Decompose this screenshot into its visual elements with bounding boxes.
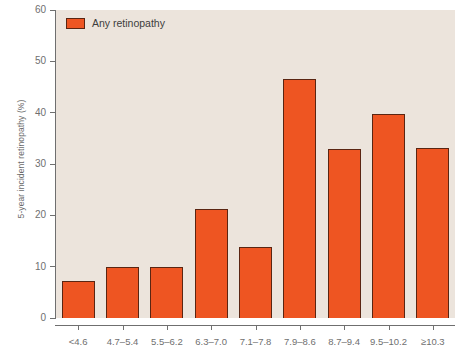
bar <box>239 247 272 318</box>
y-tick-label: 40 <box>24 108 46 118</box>
x-tick-mark <box>123 325 124 330</box>
bar <box>62 281 95 318</box>
x-tick-label: 8.7–9.4 <box>322 336 366 347</box>
x-tick-label: 7.1–7.8 <box>233 336 277 347</box>
y-tick-label: 30 <box>24 159 46 169</box>
y-tick-label: 0 <box>24 313 46 323</box>
x-tick-mark <box>78 325 79 330</box>
y-tick-mark <box>50 61 55 62</box>
legend: Any retinopathy <box>66 18 165 29</box>
y-tick-label: 20 <box>24 210 46 220</box>
bar <box>106 267 139 318</box>
y-tick-label: 50 <box>24 56 46 66</box>
x-tick-label: 6.3–7.0 <box>189 336 233 347</box>
bar <box>416 148 449 318</box>
y-tick-label: 60 <box>24 5 46 15</box>
bar-chart: 5-year incident retinopathy (%) 01020304… <box>0 0 461 357</box>
plot-area: Any retinopathy <box>56 10 455 318</box>
legend-label-any-retinopathy: Any retinopathy <box>92 18 165 29</box>
x-tick-label: <4.6 <box>56 336 100 347</box>
y-tick-mark <box>50 266 55 267</box>
y-tick-mark <box>50 112 55 113</box>
bar <box>283 79 316 318</box>
x-tick-mark <box>211 325 212 330</box>
bar <box>372 114 405 318</box>
x-tick-label: 4.7–5.4 <box>100 336 144 347</box>
x-tick-mark <box>256 325 257 330</box>
y-tick-mark <box>50 318 55 319</box>
x-tick-label: 9.5–10.2 <box>366 336 410 347</box>
y-tick-label: 10 <box>24 262 46 272</box>
legend-swatch-any-retinopathy <box>66 18 85 29</box>
y-tick-mark <box>50 215 55 216</box>
x-tick-label: 5.5–6.2 <box>145 336 189 347</box>
x-tick-mark <box>167 325 168 330</box>
y-tick-mark <box>50 10 55 11</box>
bar <box>328 149 361 318</box>
bar <box>195 209 228 318</box>
x-tick-label: ≥10.3 <box>411 336 455 347</box>
y-tick-mark <box>50 164 55 165</box>
bar <box>150 267 183 318</box>
x-tick-mark <box>300 325 301 330</box>
x-tick-mark <box>389 325 390 330</box>
x-tick-label: 7.9–8.6 <box>278 336 322 347</box>
x-tick-mark <box>344 325 345 330</box>
x-tick-mark <box>433 325 434 330</box>
